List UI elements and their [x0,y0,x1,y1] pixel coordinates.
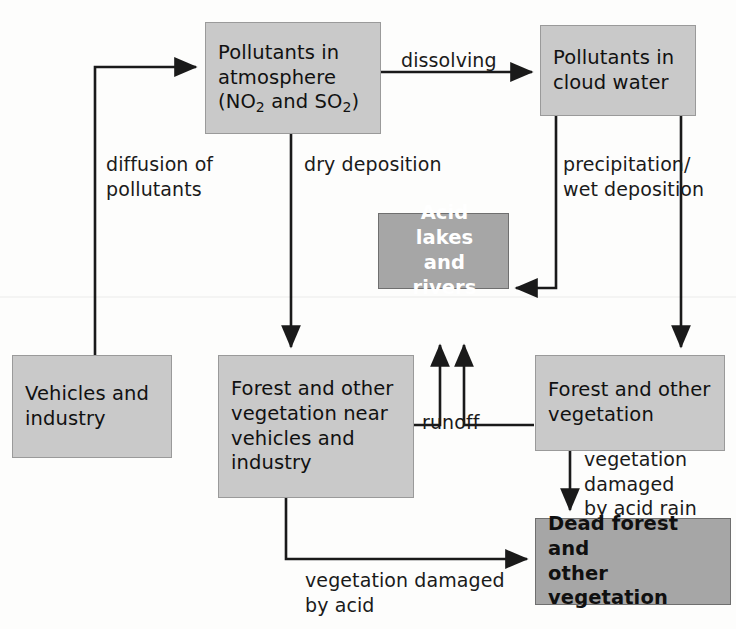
edge-label-vegetation-damaged-acid: vegetation damaged by acid [305,568,535,617]
edge-label-dissolving: dissolving [401,48,521,73]
edge-label-diffusion: diffusion of pollutants [106,152,246,201]
node-label: Pollutants in cloud water [553,46,685,96]
edge-label-runoff: runoff [422,410,512,435]
node-label: Acid lakes and rivers [391,201,498,301]
node-label: Pollutants inatmosphere(NO2 and SO2) [218,41,370,116]
edge-label-dry-deposition: dry deposition [304,152,464,177]
node-forest-near-vehicles[interactable]: Forest and other vegetation near vehicle… [218,355,414,498]
node-label: Vehicles and industry [25,382,161,432]
node-acid-lakes-rivers[interactable]: Acid lakes and rivers [378,213,509,289]
edge-label-precipitation-wet-deposition: precipitation/ wet deposition [563,152,723,201]
node-label: Dead forest and other vegetation [548,512,720,612]
edge-vegetation-damaged-acid [286,498,527,559]
node-pollutants-atmosphere[interactable]: Pollutants inatmosphere(NO2 and SO2) [205,22,381,134]
node-label: Forest and other vegetation near vehicle… [231,377,403,477]
edge-label-vegetation-damaged-acid-rain: vegetation damaged by acid rain [584,447,734,521]
node-forest-other-vegetation[interactable]: Forest and other vegetation [535,355,725,451]
edge-precipitation-wet-deposition [516,116,556,288]
diagram-canvas: Pollutants inatmosphere(NO2 and SO2) Pol… [0,0,736,629]
node-dead-forest[interactable]: Dead forest and other vegetation [535,518,731,605]
node-pollutants-cloud-water[interactable]: Pollutants in cloud water [540,25,696,116]
node-vehicles-industry[interactable]: Vehicles and industry [12,355,172,458]
node-label: Forest and other vegetation [548,378,714,428]
edge-diffusion [95,67,196,355]
